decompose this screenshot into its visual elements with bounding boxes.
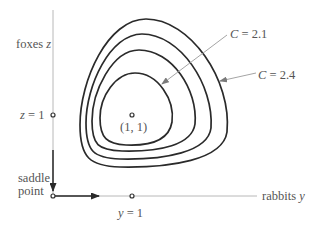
z-equals-1-point xyxy=(51,113,55,117)
innermost-orbit xyxy=(100,73,172,145)
equilibrium-point xyxy=(130,113,134,117)
pointer-c-2-4 xyxy=(220,73,256,81)
vertical-axis-label: foxes z xyxy=(16,37,51,51)
saddle-point-label-line1: saddle xyxy=(18,171,50,185)
z-equals-1-label: z = 1 xyxy=(19,108,44,122)
equilibrium-label: (1, 1) xyxy=(120,120,147,134)
horizontal-axis-label: rabbits y xyxy=(262,189,305,203)
y-equals-1-point xyxy=(130,194,134,198)
c-2-4-label: C = 2.4 xyxy=(258,68,296,82)
saddle-point-label-line2: point xyxy=(18,184,44,198)
y-equals-1-label: y = 1 xyxy=(116,206,143,220)
phase-plane-diagram: foxes z rabbits y z = 1 y = 1 (1, 1) sad… xyxy=(0,0,311,226)
c-2-1-label: C = 2.1 xyxy=(230,27,267,41)
saddle-point xyxy=(51,194,55,198)
orbit-2 xyxy=(92,50,195,151)
